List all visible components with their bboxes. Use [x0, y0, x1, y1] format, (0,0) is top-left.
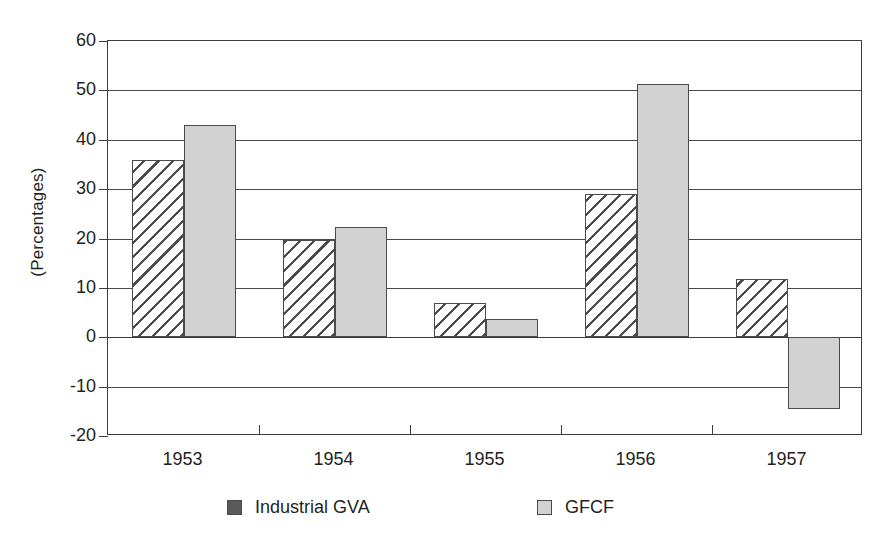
y-tick-label-30: 30 [36, 179, 96, 197]
bar-1953-gfcf [184, 125, 236, 337]
legend-label-industrial-gva: Industrial GVA [255, 498, 370, 516]
y-tick-0 [99, 337, 108, 338]
y-tick-label-20: 20 [36, 229, 96, 247]
bar-1957-industrial-gva [736, 279, 788, 337]
x-tick-4 [712, 425, 713, 435]
legend-label-gfcf: GFCF [565, 498, 614, 516]
legend-swatch-icon-gfcf [537, 500, 552, 515]
x-tick-1 [259, 425, 260, 435]
bar-1954-industrial-gva [283, 240, 335, 337]
y-tick-label--20: -20 [36, 426, 96, 444]
bar-1954-gfcf [335, 227, 387, 337]
legend-swatch-icon-industrial-gva [227, 500, 242, 515]
x-axis-label-1954: 1954 [294, 449, 374, 470]
y-tick-label-0: 0 [36, 327, 96, 345]
y-tick-label-50: 50 [36, 80, 96, 98]
gridline--10 [108, 387, 861, 388]
y-tick-10 [99, 288, 108, 289]
y-tick--10 [99, 387, 108, 388]
y-tick-20 [99, 239, 108, 240]
y-tick-label-10: 10 [36, 278, 96, 296]
bar-1956-industrial-gva [585, 194, 637, 337]
x-tick-3 [561, 425, 562, 435]
chart-legend: Industrial GVAGFCF [107, 495, 862, 527]
x-axis-label-1956: 1956 [596, 449, 676, 470]
y-tick-label--10: -10 [36, 377, 96, 395]
gridline-50 [108, 90, 861, 91]
y-tick-40 [99, 140, 108, 141]
gridline-0 [108, 337, 861, 338]
y-tick-30 [99, 189, 108, 190]
plot-area [107, 40, 862, 435]
bar-1955-gfcf [486, 319, 538, 337]
bar-1956-gfcf [637, 84, 689, 337]
y-tick-label-40: 40 [36, 130, 96, 148]
y-tick--20 [99, 436, 108, 437]
x-axis-label-1955: 1955 [445, 449, 525, 470]
legend-entry-gfcf: GFCF [537, 495, 614, 519]
x-axis-label-1957: 1957 [747, 449, 827, 470]
bar-1953-industrial-gva [132, 160, 184, 337]
bar-chart: (Percentages) 6050403020100-10-20 195319… [0, 0, 891, 543]
bar-1955-industrial-gva [434, 303, 486, 337]
y-tick-60 [99, 41, 108, 42]
y-tick-label-60: 60 [36, 31, 96, 49]
y-tick-50 [99, 90, 108, 91]
legend-entry-industrial-gva: Industrial GVA [227, 495, 370, 519]
x-axis-label-1953: 1953 [143, 449, 223, 470]
bar-1957-gfcf [788, 337, 840, 409]
x-tick-2 [410, 425, 411, 435]
